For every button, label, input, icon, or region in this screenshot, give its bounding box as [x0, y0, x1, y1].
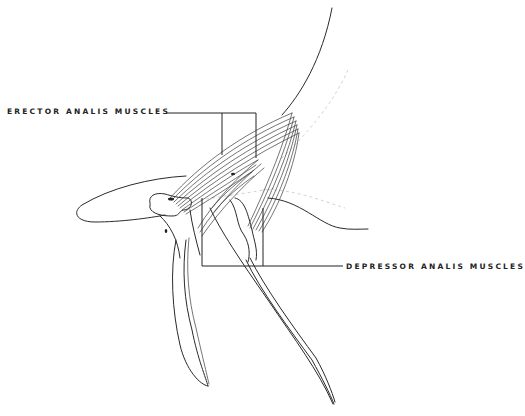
- pterygiophore-head: [150, 193, 192, 216]
- fin-ray-left-outer: [173, 240, 208, 386]
- fin-ray-left-edge: [188, 238, 209, 384]
- tissue-mark-1: [168, 198, 174, 201]
- erector-muscle-fibers: [170, 113, 299, 232]
- body-outline-lower: [268, 198, 368, 229]
- erector-leader-line: [166, 113, 256, 158]
- fin-ray-right-outer: [210, 208, 333, 404]
- body-outline-upper: [282, 8, 332, 115]
- depressor-analis-label: DEPRESSOR ANALIS MUSCLES: [346, 262, 525, 271]
- fin-ray-right-inner-b: [250, 258, 335, 402]
- tissue-mark-3: [165, 229, 168, 233]
- tissue-mark-2: [231, 173, 235, 175]
- pterygiophore-shaft: [160, 210, 200, 258]
- erector-analis-label: ERECTOR ANALIS MUSCLES: [7, 107, 170, 116]
- faint-outline-1: [280, 70, 348, 160]
